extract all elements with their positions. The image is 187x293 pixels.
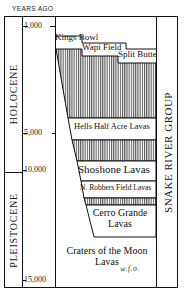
epoch-label-pleistocene: PLEISTOCENE xyxy=(8,193,19,268)
unit-label-cerro-grande: Cerro Grande Lavas xyxy=(89,208,151,229)
group-label-snake-river: SNAKE RIVER GROUP xyxy=(162,92,174,213)
group-column: SNAKE RIVER GROUP xyxy=(156,16,178,288)
unit-label-split-butte: Split Butte xyxy=(118,50,156,59)
tick-mark-10000-left xyxy=(23,170,26,171)
unit-label-hells-half-acre: Hells Half Acre Lavas xyxy=(74,122,150,131)
scale-tick-15000: 15,000 xyxy=(24,276,46,284)
unit-label-shoshone: Shoshone Lavas xyxy=(78,164,150,176)
time-scale-column: 1,000 5,000 10,000 15,000 xyxy=(23,16,56,288)
scale-tick-10000: 10,000 xyxy=(24,166,46,174)
tick-mark-5000-left xyxy=(23,133,27,134)
unit-label-craters-of-the-moon: Craters of the Moon Lavas xyxy=(58,246,156,267)
epoch-cell-pleistocene: PLEISTOCENE xyxy=(4,173,23,288)
epoch-label-holocene: HOLOCENE xyxy=(8,64,19,124)
tick-mark-1000-left xyxy=(23,26,28,27)
artist-signature: w.f.o. xyxy=(120,263,140,273)
unit-body-hatched-thin xyxy=(84,198,156,205)
lava-units-plot: Kings Bowl Wapi Field Split Butte Hells … xyxy=(56,16,156,288)
epoch-column: HOLOCENE PLEISTOCENE xyxy=(4,16,23,288)
tick-mark-15000-left xyxy=(23,280,26,281)
unit-label-n-robbers-field: N. Robbers Field Lavas xyxy=(80,184,151,192)
epoch-cell-holocene: HOLOCENE xyxy=(4,16,23,173)
unit-label-wapi-field: Wapi Field xyxy=(82,43,122,52)
axis-title-years-ago: YEARS AGO xyxy=(12,5,54,12)
stratigraphic-chart: YEARS AGO HOLOCENE PLEISTOCENE 1,000 5,0… xyxy=(0,0,187,293)
unit-body-hatched-mid xyxy=(72,140,156,161)
